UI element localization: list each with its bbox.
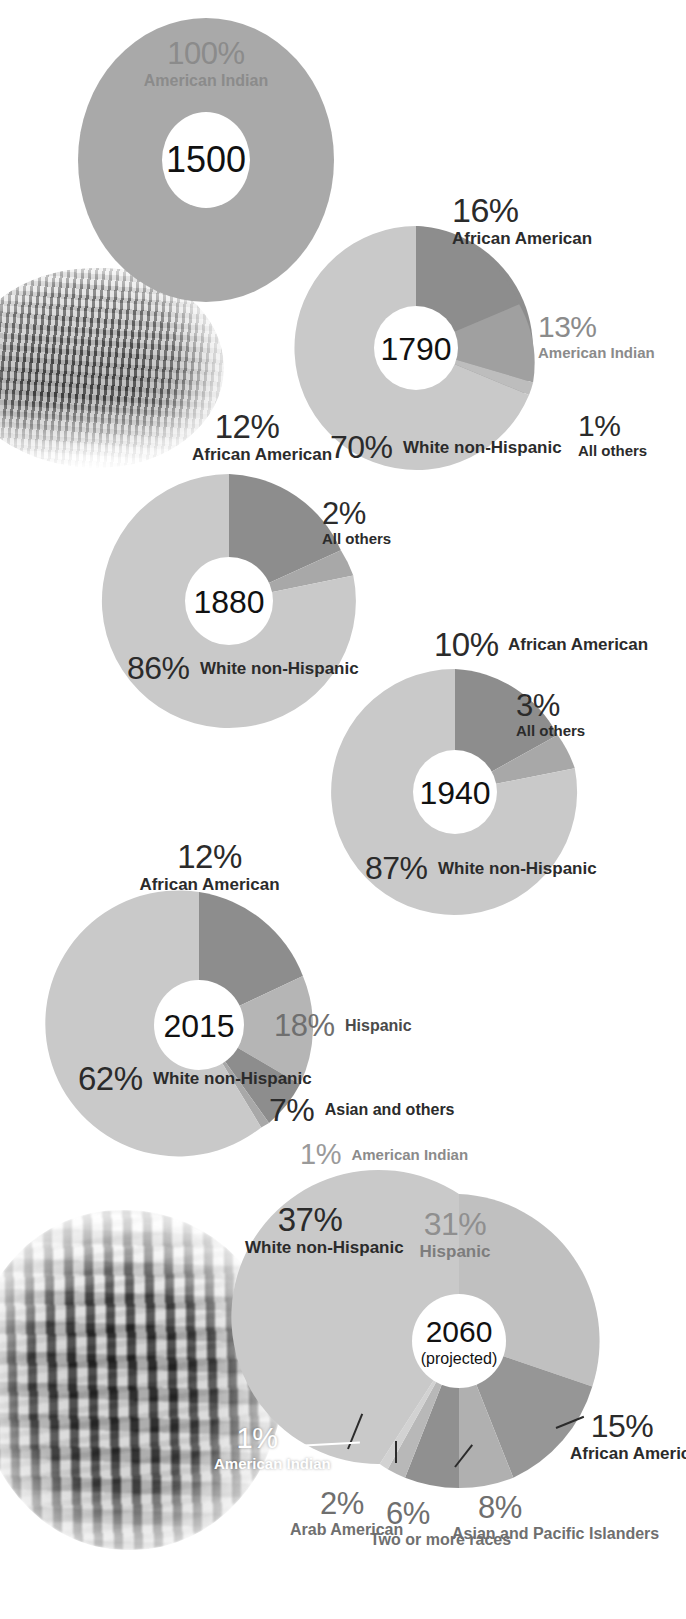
label-2060-white-non-hispanic: 37% White non-Hispanic xyxy=(245,1203,375,1256)
pct-2060-arab-american: 2% xyxy=(290,1488,394,1520)
label-1790-all-others: 1% All others xyxy=(578,411,647,458)
cat-1790-white-non-hispanic: White non-Hispanic xyxy=(403,439,495,456)
cat-2060-white-non-hispanic: White non-Hispanic xyxy=(245,1239,375,1256)
pct-1940-all-others: 3% xyxy=(516,690,585,722)
cat-1880-white-non-hispanic: White non-Hispanic xyxy=(200,660,288,677)
label-1940-all-others: 3% All others xyxy=(516,690,585,738)
pct-1940-white-non-hispanic: 87% xyxy=(365,852,428,885)
pct-2015-asian-and-others: 7% xyxy=(269,1094,314,1127)
cat-1790-african-american: African American xyxy=(452,230,547,247)
cat-2015-african-american: African American xyxy=(112,876,307,893)
label-2015-african-american: 12% African American xyxy=(112,840,307,893)
label-2060-african-american: 15% African American xyxy=(570,1410,674,1462)
pct-2015-american-indian: 1% xyxy=(300,1140,341,1170)
pct-1880-all-others: 2% xyxy=(322,498,391,530)
label-2015-white-non-hispanic: 62% White non-Hispanic xyxy=(78,1062,243,1096)
label-2015-hispanic: 18% Hispanic xyxy=(274,1010,412,1042)
cat-2015-asian-and-others: Asian and others xyxy=(325,1102,455,1118)
cat-1880-african-american: African American xyxy=(192,446,302,463)
year-label-1940: 1940 xyxy=(419,775,490,811)
label-2015-american-indian: 1% American Indian xyxy=(300,1140,468,1170)
pct-1790-all-others: 1% xyxy=(578,411,647,442)
label-1880-white-non-hispanic: 86% White non-Hispanic xyxy=(127,652,288,685)
cat-1940-african-american: African American xyxy=(508,636,582,653)
cat-2060-african-american: African American xyxy=(570,1445,674,1462)
label-1500-american-indian: 100% American Indian xyxy=(82,38,330,89)
pct-1500-american-indian: 100% xyxy=(82,38,330,70)
label-2060-american-indian: 1% American Indian xyxy=(214,1424,300,1471)
pct-2060-african-american: 15% xyxy=(570,1410,674,1443)
pct-1790-white-non-hispanic: 70% xyxy=(330,431,393,464)
cat-1500-american-indian: American Indian xyxy=(82,73,330,89)
pct-2015-white-non-hispanic: 62% xyxy=(78,1062,143,1096)
pct-1790-american-indian: 13% xyxy=(538,312,648,343)
label-1940-african-american: 10% African American xyxy=(434,628,582,662)
modern-crowd-photo xyxy=(0,1210,284,1550)
cat-2060-arab-american: Arab American xyxy=(290,1522,394,1538)
year-label-1500: 1500 xyxy=(166,139,246,180)
pct-1790-african-american: 16% xyxy=(452,193,547,228)
cat-2015-hispanic: Hispanic xyxy=(345,1018,412,1034)
cat-1790-american-indian: American Indian xyxy=(538,345,648,360)
pct-1880-white-non-hispanic: 86% xyxy=(127,652,190,685)
label-2060-arab-american: 2% Arab American xyxy=(290,1488,394,1538)
label-1880-all-others: 2% All others xyxy=(322,498,391,546)
label-1790-white-non-hispanic: 70% White non-Hispanic xyxy=(330,431,495,464)
pct-2015-african-american: 12% xyxy=(112,840,307,874)
label-1940-white-non-hispanic: 87% White non-Hispanic xyxy=(365,852,526,885)
cat-2060-american-indian: American Indian xyxy=(214,1456,300,1471)
infographic-canvas: 1500 100% American Indian 1790 16% Afric… xyxy=(0,0,686,1619)
cat-1790-all-others: All others xyxy=(578,443,647,458)
year-sublabel-2060: (projected) xyxy=(421,1350,497,1367)
label-2015-asian-and-others: 7% Asian and others xyxy=(269,1094,455,1127)
pct-2060-white-non-hispanic: 37% xyxy=(245,1203,375,1237)
cat-2015-american-indian: American Indian xyxy=(351,1147,468,1162)
cat-2015-white-non-hispanic: White non-Hispanic xyxy=(153,1070,243,1087)
leader-line-2060-two-or-more xyxy=(395,1441,397,1463)
pct-1940-african-american: 10% xyxy=(434,628,499,662)
label-1790-african-american: 16% African American xyxy=(452,193,547,247)
cat-1940-all-others: All others xyxy=(516,723,585,738)
year-label-2015: 2015 xyxy=(163,1008,234,1044)
year-label-2060: 2060 xyxy=(426,1315,493,1348)
label-2060-hispanic: 31% Hispanic xyxy=(400,1208,510,1260)
label-1880-african-american: 12% African American xyxy=(192,410,302,463)
pct-2060-asian-pacific-islanders: 8% xyxy=(452,1492,548,1524)
pct-1880-african-american: 12% xyxy=(192,410,302,444)
cat-1880-all-others: All others xyxy=(322,531,391,546)
donut-chart-1880: 1880 xyxy=(98,470,360,732)
label-1790-american-indian: 13% American Indian xyxy=(538,312,648,360)
year-label-1880: 1880 xyxy=(193,584,264,620)
cat-2060-hispanic: Hispanic xyxy=(400,1243,510,1260)
pct-2060-hispanic: 31% xyxy=(400,1208,510,1241)
cat-1940-white-non-hispanic: White non-Hispanic xyxy=(438,860,526,877)
year-label-1790: 1790 xyxy=(380,331,451,367)
pct-2060-american-indian: 1% xyxy=(214,1424,300,1454)
pct-2015-hispanic: 18% xyxy=(274,1010,335,1042)
